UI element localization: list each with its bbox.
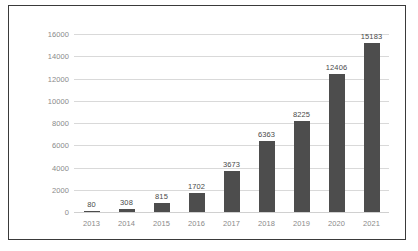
y-axis-tick-label: 0 (65, 208, 69, 217)
bar-value-label: 308 (120, 198, 133, 207)
y-axis-tick-label: 6000 (52, 141, 69, 150)
y-axis-tick-label: 16000 (48, 30, 69, 39)
bar[interactable] (154, 203, 170, 212)
x-axis-tick-label: 2017 (223, 219, 240, 228)
y-axis-tick-label: 10000 (48, 96, 69, 105)
gridline (74, 212, 389, 213)
bar[interactable] (224, 171, 240, 212)
bar-value-label: 8225 (293, 110, 310, 119)
x-axis-tick-label: 2013 (83, 219, 100, 228)
x-axis-tick-label: 2018 (258, 219, 275, 228)
chart-frame: 0200040006000800010000120001400016000802… (8, 5, 406, 240)
x-axis-tick-label: 2021 (363, 219, 380, 228)
x-axis-tick-label: 2020 (328, 219, 345, 228)
bar[interactable] (84, 211, 100, 212)
gridline (74, 56, 389, 57)
bar-chart: 0200040006000800010000120001400016000802… (9, 6, 405, 239)
bar-value-label: 80 (87, 200, 96, 209)
bar-value-label: 12406 (326, 63, 347, 72)
y-axis-tick-label: 12000 (48, 74, 69, 83)
x-axis-tick-label: 2014 (118, 219, 135, 228)
plot-area: 0200040006000800010000120001400016000802… (74, 34, 389, 212)
y-axis-tick-label: 8000 (52, 119, 69, 128)
bar-value-label: 1702 (188, 182, 205, 191)
y-axis-tick-label: 2000 (52, 185, 69, 194)
bar[interactable] (294, 121, 310, 213)
bar[interactable] (364, 43, 380, 212)
bar-value-label: 815 (155, 192, 168, 201)
bar[interactable] (259, 141, 275, 212)
x-axis-tick-label: 2016 (188, 219, 205, 228)
bar-value-label: 6363 (258, 130, 275, 139)
bar-value-label: 3673 (223, 160, 240, 169)
gridline (74, 34, 389, 35)
bar[interactable] (119, 209, 135, 212)
x-axis-tick-label: 2015 (153, 219, 170, 228)
y-axis-tick-label: 14000 (48, 52, 69, 61)
y-axis-tick-label: 4000 (52, 163, 69, 172)
bar-value-label: 15183 (361, 32, 382, 41)
x-axis-tick-label: 2019 (293, 219, 310, 228)
bar[interactable] (189, 193, 205, 212)
bar[interactable] (329, 74, 345, 212)
